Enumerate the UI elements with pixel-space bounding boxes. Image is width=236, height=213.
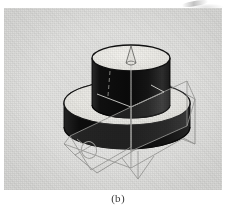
figure-caption: (b) [0, 192, 236, 204]
figure-container: (b) [0, 0, 236, 213]
figure-image-panel [4, 8, 222, 190]
plane-bottom-vertex [122, 151, 154, 179]
solid-model-scene [4, 8, 222, 190]
